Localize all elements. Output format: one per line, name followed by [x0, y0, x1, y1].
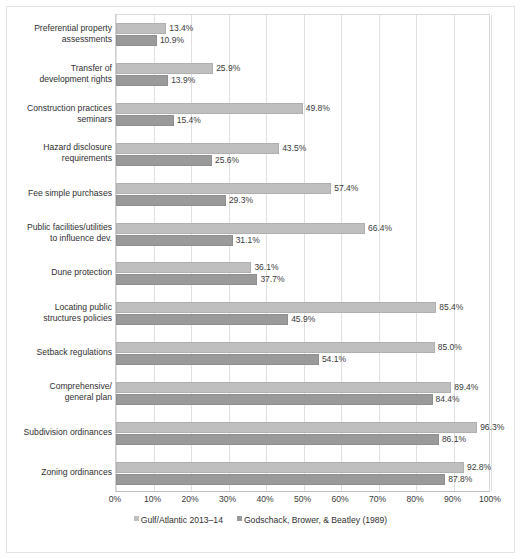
category-label: Public facilities/utilitiesto influence … [8, 222, 112, 244]
bar-series-1 [116, 23, 166, 34]
bar-value-label: 29.3% [229, 195, 253, 206]
bar-value-label: 85.0% [438, 342, 462, 353]
bar-series-2 [116, 314, 288, 325]
bar-value-label: 87.8% [448, 474, 472, 485]
bar-series-1 [116, 382, 451, 393]
legend-item[interactable]: Gulf/Atlantic 2013–14 [134, 514, 223, 525]
category-label: Zoning ordinances [8, 467, 112, 478]
bar-series-1 [116, 302, 436, 313]
bar-group: 43.5%25.6% [116, 143, 489, 166]
bar-series-1 [116, 103, 303, 114]
chart-legend: Gulf/Atlantic 2013–14Godschack, Brower, … [0, 514, 521, 525]
bar-series-1 [116, 422, 477, 433]
bar-series-2 [116, 434, 439, 445]
bar-series-1 [116, 223, 365, 234]
bar-series-1 [116, 63, 213, 74]
bar-value-label: 25.6% [215, 155, 239, 166]
x-axis-tick-label: 40% [256, 494, 273, 504]
bar-series-2 [116, 195, 226, 206]
bar-group: 96.3%86.1% [116, 422, 489, 445]
bar-value-label: 10.9% [160, 35, 184, 46]
bar-group: 85.4%45.9% [116, 302, 489, 325]
x-axis-tick-label: 50% [294, 494, 311, 504]
bar-value-label: 13.4% [169, 23, 193, 34]
bar-value-label: 45.9% [291, 314, 315, 325]
bar-group: 49.8%15.4% [116, 103, 489, 126]
x-axis-tick-label: 70% [369, 494, 386, 504]
legend-swatch-icon [237, 516, 242, 521]
bar-series-2 [116, 474, 445, 485]
bar-series-2 [116, 394, 433, 405]
bar-group: 36.1%37.7% [116, 262, 489, 285]
x-axis-tick-label: 60% [331, 494, 348, 504]
category-label: Setback regulations [8, 347, 112, 358]
bar-value-label: 89.4% [454, 382, 478, 393]
bar-group: 92.8%87.8% [116, 462, 489, 485]
chart-container: 13.4%10.9%25.9%13.9%49.8%15.4%43.5%25.6%… [0, 0, 521, 559]
category-label: Dune protection [8, 267, 112, 278]
bar-value-label: 84.4% [436, 394, 460, 405]
x-axis-tick-label: 90% [444, 494, 461, 504]
bar-value-label: 96.3% [480, 422, 504, 433]
bar-group: 85.0%54.1% [116, 342, 489, 365]
category-label: Construction practicesseminars [8, 103, 112, 125]
bar-series-2 [116, 155, 212, 166]
bar-group: 57.4%29.3% [116, 183, 489, 206]
bar-group: 13.4%10.9% [116, 23, 489, 46]
category-label: Preferential propertyassessments [8, 23, 112, 45]
x-axis-tick-label: 80% [406, 494, 423, 504]
bar-value-label: 92.8% [467, 462, 491, 473]
bar-series-2 [116, 235, 233, 246]
category-label: Subdivision ordinances [8, 427, 112, 438]
bar-series-1 [116, 462, 464, 473]
legend-swatch-icon [134, 516, 139, 521]
bar-value-label: 15.4% [177, 115, 201, 126]
bar-value-label: 25.9% [216, 63, 240, 74]
category-label: Comprehensive/general plan [8, 381, 112, 403]
bar-group: 66.4%31.1% [116, 223, 489, 246]
plot-area: 13.4%10.9%25.9%13.9%49.8%15.4%43.5%25.6%… [115, 14, 490, 492]
x-axis-tick-label: 20% [181, 494, 198, 504]
category-label: Transfer ofdevelopment rights [8, 63, 112, 85]
bar-value-label: 49.8% [306, 103, 330, 114]
bar-value-label: 57.4% [334, 183, 358, 194]
bar-value-label: 54.1% [322, 354, 346, 365]
bar-group: 25.9%13.9% [116, 63, 489, 86]
bar-value-label: 37.7% [260, 274, 284, 285]
x-axis-tick-label: 10% [144, 494, 161, 504]
category-label: Hazard disclosurerequirements [8, 142, 112, 164]
bar-value-label: 13.9% [171, 75, 195, 86]
bar-series-1 [116, 143, 279, 154]
bar-series-2 [116, 115, 174, 126]
category-label: Fee simple purchases [8, 188, 112, 199]
bar-group: 89.4%84.4% [116, 382, 489, 405]
bar-series-2 [116, 35, 157, 46]
x-axis-tick-label: 0% [109, 494, 121, 504]
x-axis-ticks: 0%10%20%30%40%50%60%70%80%90%100% [115, 494, 490, 510]
bar-rows: 13.4%10.9%25.9%13.9%49.8%15.4%43.5%25.6%… [116, 15, 489, 491]
category-axis-labels: Preferential propertyassessmentsTransfer… [8, 14, 112, 492]
x-axis-tick-label: 30% [219, 494, 236, 504]
bar-series-1 [116, 183, 331, 194]
bar-value-label: 66.4% [368, 223, 392, 234]
bar-series-2 [116, 274, 257, 285]
legend-item[interactable]: Godschack, Brower, & Beatley (1989) [237, 514, 387, 525]
x-axis-tick-label: 100% [479, 494, 501, 504]
bar-value-label: 31.1% [236, 235, 260, 246]
bar-value-label: 85.4% [439, 302, 463, 313]
category-label: Locating publicstructures policies [8, 302, 112, 324]
bar-series-1 [116, 262, 251, 273]
bar-series-2 [116, 354, 319, 365]
legend-label: Godschack, Brower, & Beatley (1989) [244, 515, 387, 525]
bar-value-label: 86.1% [442, 434, 466, 445]
bar-series-1 [116, 342, 435, 353]
bar-series-2 [116, 75, 168, 86]
legend-label: Gulf/Atlantic 2013–14 [141, 515, 223, 525]
gridline [491, 15, 492, 491]
bar-value-label: 43.5% [282, 143, 306, 154]
bar-value-label: 36.1% [254, 262, 278, 273]
